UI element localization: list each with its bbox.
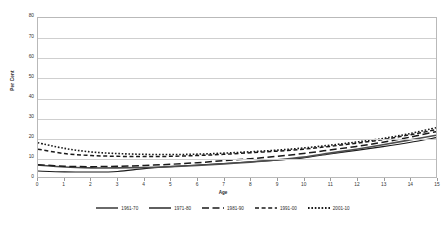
- x-axis-tick-label: 12: [347, 182, 367, 187]
- x-axis-tick-label: 9: [267, 182, 287, 187]
- x-axis-tick-label: 3: [107, 182, 127, 187]
- x-axis-tick-mark: [224, 178, 225, 181]
- x-axis-tick-mark: [197, 178, 198, 181]
- legend-line-swatch: [255, 205, 277, 211]
- x-axis-tick-mark: [277, 178, 278, 181]
- series-line: [38, 132, 436, 167]
- y-axis-tick-label: 30: [18, 115, 34, 120]
- series-lines: [38, 18, 436, 177]
- x-axis-tick-mark: [90, 178, 91, 181]
- plot-area: [37, 17, 437, 178]
- gridline: [38, 78, 436, 79]
- x-axis-tick-mark: [250, 178, 251, 181]
- x-axis-tick-mark: [37, 178, 38, 181]
- x-axis-tick-label: 1: [54, 182, 74, 187]
- legend-item[interactable]: 2001-10: [308, 205, 350, 211]
- y-axis-tick-label: 50: [18, 75, 34, 80]
- x-axis-tick-label: 13: [374, 182, 394, 187]
- y-axis-tick-label: 20: [18, 135, 34, 140]
- x-axis-tick-mark: [357, 178, 358, 181]
- line-chart: Per Cent 01020304050607080 0123456789101…: [0, 0, 446, 225]
- x-axis-tick-label: 2: [80, 182, 100, 187]
- legend-line-swatch: [96, 205, 118, 211]
- x-axis-tick-mark: [304, 178, 305, 181]
- x-axis-tick-label: 15: [427, 182, 446, 187]
- legend-item[interactable]: 1991-00: [255, 205, 297, 211]
- x-axis-tick-mark: [64, 178, 65, 181]
- x-axis-tick-label: 11: [320, 182, 340, 187]
- chart-legend: 1961-701971-801981-901991-002001-10: [0, 205, 446, 211]
- legend-label: 1991-00: [280, 206, 297, 211]
- y-axis-tick-label: 60: [18, 55, 34, 60]
- x-axis-tick-label: 8: [240, 182, 260, 187]
- x-axis-tick-mark: [144, 178, 145, 181]
- gridline: [38, 38, 436, 39]
- x-axis-tick-mark: [410, 178, 411, 181]
- x-axis-tick-mark: [117, 178, 118, 181]
- gridline: [38, 119, 436, 120]
- legend-item[interactable]: 1961-70: [96, 205, 138, 211]
- x-axis-tick-labels: 0123456789101112131415: [37, 178, 437, 190]
- legend-line-swatch: [149, 205, 171, 211]
- y-axis-tick-label: 10: [18, 155, 34, 160]
- legend-item[interactable]: 1981-90: [202, 205, 244, 211]
- x-axis-tick-mark: [437, 178, 438, 181]
- x-axis-tick-label: 4: [134, 182, 154, 187]
- y-axis-tick-label: 40: [18, 95, 34, 100]
- legend-line-swatch: [202, 205, 224, 211]
- gridline: [38, 139, 436, 140]
- x-axis-tick-label: 10: [294, 182, 314, 187]
- x-axis-tick-label: 6: [187, 182, 207, 187]
- x-axis-tick-label: 5: [160, 182, 180, 187]
- y-axis-tick-label: 70: [18, 35, 34, 40]
- x-axis-tick-mark: [384, 178, 385, 181]
- legend-label: 1971-80: [174, 206, 191, 211]
- legend-label: 2001-10: [333, 206, 350, 211]
- x-axis-tick-label: 0: [27, 182, 47, 187]
- y-axis-tick-label: 80: [18, 14, 34, 19]
- series-line: [38, 128, 436, 155]
- x-axis-title: Age: [0, 190, 446, 195]
- x-axis-tick-mark: [170, 178, 171, 181]
- legend-line-swatch: [308, 205, 330, 211]
- y-axis-tick-label: 0: [18, 175, 34, 180]
- legend-item[interactable]: 1971-80: [149, 205, 191, 211]
- x-axis-tick-mark: [330, 178, 331, 181]
- x-axis-tick-label: 7: [214, 182, 234, 187]
- legend-label: 1981-90: [227, 206, 244, 211]
- gridline: [38, 159, 436, 160]
- x-axis-tick-label: 14: [400, 182, 420, 187]
- legend-label: 1961-70: [121, 206, 138, 211]
- gridline: [38, 99, 436, 100]
- y-axis-title: Per Cent: [10, 51, 15, 111]
- gridline: [38, 58, 436, 59]
